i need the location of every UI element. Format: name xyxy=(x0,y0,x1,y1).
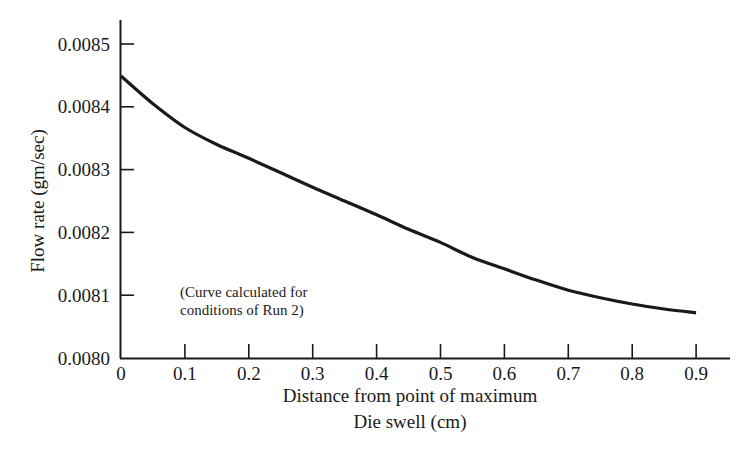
x-tick-label: 0.9 xyxy=(684,363,708,384)
curve-annotation: (Curve calculated for conditions of Run … xyxy=(180,284,307,319)
annotation-line-1: (Curve calculated for xyxy=(180,284,307,301)
x-tick-label: 0.7 xyxy=(556,363,580,384)
x-axis-title-line-1: Distance from point of maximum xyxy=(283,385,538,406)
flow-rate-curve xyxy=(121,76,696,313)
y-tick-label: 0.0081 xyxy=(58,285,110,306)
axes: 0.00800.00810.00820.00830.00840.0085 00.… xyxy=(58,20,730,384)
x-axis-title-line-2: Die swell (cm) xyxy=(354,411,467,433)
x-tick-label: 0 xyxy=(116,363,126,384)
y-tick-label: 0.0082 xyxy=(58,222,110,243)
x-tick-label: 0.6 xyxy=(493,363,517,384)
x-tick-label: 0.1 xyxy=(173,363,197,384)
y-ticks: 0.00800.00810.00820.00830.00840.0085 xyxy=(58,34,134,369)
y-tick-label: 0.0084 xyxy=(58,96,111,117)
y-tick-label: 0.0080 xyxy=(58,348,110,369)
x-tick-label: 0.4 xyxy=(365,363,389,384)
x-tick-label: 0.5 xyxy=(429,363,453,384)
y-axis-title: Flow rate (gm/sec) xyxy=(27,129,49,273)
x-tick-label: 0.3 xyxy=(301,363,325,384)
annotation-line-2: conditions of Run 2) xyxy=(180,302,304,319)
y-tick-label: 0.0083 xyxy=(58,159,110,180)
x-tick-label: 0.2 xyxy=(237,363,261,384)
flow-rate-chart: 0.00800.00810.00820.00830.00840.0085 00.… xyxy=(0,0,756,450)
y-tick-label: 0.0085 xyxy=(58,34,110,55)
x-tick-label: 0.8 xyxy=(620,363,644,384)
x-ticks: 00.10.20.30.40.50.60.70.80.9 xyxy=(116,344,708,384)
